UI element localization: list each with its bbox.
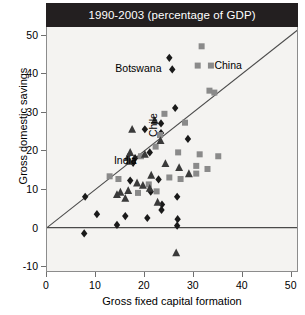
botswana-label: Botswana: [115, 63, 161, 74]
x-tick-label: 50: [276, 280, 305, 290]
y-tick-label: 10: [8, 184, 38, 194]
data-point-triangle: [133, 179, 141, 187]
data-point-triangle: [172, 248, 180, 256]
data-point-diamond: [94, 210, 100, 218]
y-tick-label: 50: [8, 30, 38, 40]
plot-area: BotswanaChinaChileIndia: [46, 27, 298, 272]
china-label: China: [214, 60, 241, 71]
y-tick-label: 20: [8, 145, 38, 155]
data-point-square: [208, 63, 214, 69]
x-tick-mark: [95, 272, 96, 277]
data-point-square: [154, 188, 160, 194]
data-point-square: [199, 43, 205, 49]
chile-label: Chile: [148, 113, 159, 137]
plot-canvas: [47, 27, 298, 272]
india-label: India: [114, 155, 137, 166]
data-point-square: [182, 120, 188, 126]
data-point-square: [166, 174, 172, 180]
data-point-diamond: [174, 215, 180, 223]
data-point-diamond: [158, 206, 164, 214]
data-point-triangle: [154, 198, 162, 206]
chart-title-bar: 1990-2003 (percentage of GDP): [46, 3, 298, 27]
x-tick-mark: [46, 272, 47, 277]
x-tick-mark: [144, 272, 145, 277]
x-tick-mark: [291, 272, 292, 277]
scatter-chart-figure: 1990-2003 (percentage of GDP) Gross dome…: [0, 0, 305, 315]
data-point-square: [204, 166, 210, 172]
data-point-diamond: [172, 104, 178, 112]
data-point-diamond: [144, 214, 150, 222]
data-point-triangle: [124, 186, 132, 194]
x-tick-mark: [193, 272, 194, 277]
data-point-diamond: [174, 193, 180, 201]
data-point-triangle: [185, 169, 193, 177]
x-tick-label: 10: [80, 280, 110, 290]
data-point-square: [215, 153, 221, 159]
y-tick-label: -10: [8, 261, 38, 271]
x-tick-label: 20: [129, 280, 159, 290]
data-point-diamond: [155, 175, 161, 183]
data-point-square: [107, 173, 113, 179]
x-tick-label: 0: [31, 280, 61, 290]
x-tick-label: 40: [227, 280, 257, 290]
data-point-square: [135, 190, 141, 196]
data-point-square: [115, 176, 121, 182]
data-point-diamond: [122, 212, 128, 220]
x-tick-label: 30: [178, 280, 208, 290]
data-point-diamond: [147, 148, 153, 156]
data-point-diamond: [166, 54, 172, 62]
y-tick-label: 30: [8, 107, 38, 117]
y-tick-label: 40: [8, 68, 38, 78]
data-point-diamond: [81, 229, 87, 237]
data-point-square: [153, 144, 159, 150]
x-tick-mark: [242, 272, 243, 277]
data-point-diamond: [185, 135, 191, 143]
x-axis-label: Gross fixed capital formation: [46, 295, 298, 307]
data-point-square: [193, 171, 199, 177]
data-point-square: [197, 151, 203, 157]
data-point-diamond: [127, 176, 133, 184]
data-point-diamond: [174, 222, 180, 230]
data-point-square: [161, 111, 167, 117]
data-point-square: [195, 63, 201, 69]
data-point-square: [211, 90, 217, 96]
data-point-square: [193, 163, 199, 169]
data-point-triangle: [175, 163, 183, 171]
data-point-square: [175, 149, 181, 155]
data-point-square: [178, 176, 184, 182]
data-point-diamond: [169, 65, 175, 73]
data-point-triangle: [147, 171, 155, 179]
data-point-triangle: [161, 159, 169, 167]
y-tick-label: 0: [8, 223, 38, 233]
chart-title: 1990-2003 (percentage of GDP): [88, 9, 255, 21]
data-point-triangle: [128, 125, 136, 133]
